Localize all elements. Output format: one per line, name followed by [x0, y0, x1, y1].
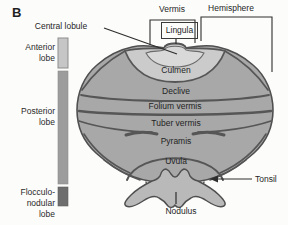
flocculonodular-lobe-label: Flocculo-nodular lobe: [11, 187, 55, 220]
tuber-vermis-label: Tuber vermis: [136, 118, 216, 129]
cerebellum-diagram-panel: B Vermis Hemisphere Central lobule Lingu…: [0, 0, 288, 225]
hemisphere-label: Hemisphere: [202, 3, 260, 14]
culmen-label: Culmen: [146, 65, 206, 76]
lingula-label: Lingula: [161, 22, 198, 39]
panel-letter: B: [12, 5, 21, 20]
uvula-label: Uvula: [146, 156, 206, 167]
pyramis-label: Pyramis: [146, 136, 206, 147]
nodulus-label: Nodulus: [151, 206, 211, 217]
posterior-lobe-color-bar: [58, 71, 68, 184]
posterior-lobe-label: Posterior lobe: [11, 106, 55, 128]
folium-vermis-label: Folium vermis: [135, 101, 215, 112]
anterior-lobe-label: Anterior lobe: [11, 42, 55, 64]
central-lobule-label: Central lobule: [16, 21, 106, 32]
anterior-lobe-color-bar: [58, 38, 68, 68]
vermis-label: Vermis: [148, 4, 196, 15]
declive-label: Declive: [146, 86, 206, 97]
tonsil-label: Tonsil: [255, 174, 287, 185]
flocculonodular-lobe-color-bar: [58, 187, 68, 206]
